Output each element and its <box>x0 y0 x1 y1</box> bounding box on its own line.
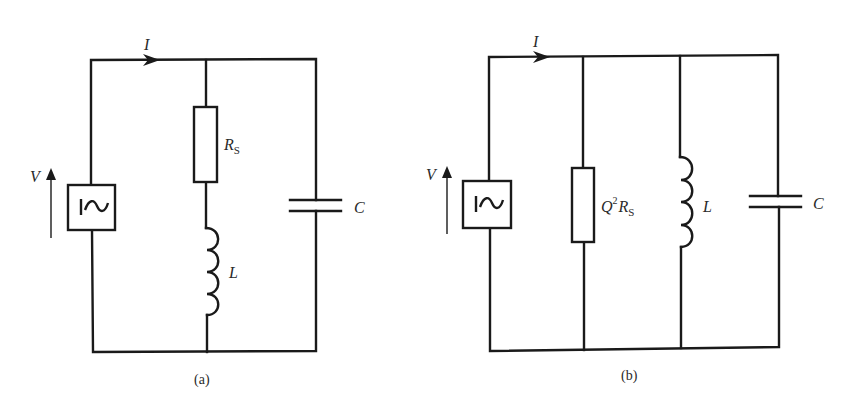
capacitor-label-a: C <box>354 199 365 216</box>
resistor-label-a: RS <box>223 136 240 156</box>
ac-source-icon-a <box>68 185 115 230</box>
current-label-b: I <box>532 33 539 50</box>
voltage-label-a: V <box>30 168 42 185</box>
caption-b: (b) <box>621 368 638 384</box>
voltage-label-b: V <box>426 166 438 183</box>
resistor-label-b: Q2RS <box>601 195 634 218</box>
capacitor-label-b: C <box>813 195 824 212</box>
inductor-label-a: L <box>228 264 238 281</box>
caption-a: (a) <box>194 372 210 388</box>
voltage-arrow-b <box>442 166 452 234</box>
wires-b <box>489 55 779 351</box>
circuit-a: I V RS L C (a) <box>30 36 365 388</box>
capacitor-icon-b <box>750 196 801 207</box>
resistor-icon-b <box>572 168 594 242</box>
inductor-icon-b <box>680 157 692 247</box>
ac-source-icon-b <box>463 181 511 228</box>
voltage-arrow-a <box>46 168 56 238</box>
circuit-figure: I V RS L C (a) <box>0 0 847 406</box>
inductor-label-b: L <box>702 198 712 215</box>
current-label-a: I <box>143 36 150 53</box>
resistor-icon-a <box>194 107 217 182</box>
capacitor-icon-a <box>290 200 341 211</box>
wires-a <box>91 59 316 352</box>
inductor-icon-a <box>206 228 218 315</box>
circuit-b: I V Q2RS L C (b) <box>426 33 824 384</box>
